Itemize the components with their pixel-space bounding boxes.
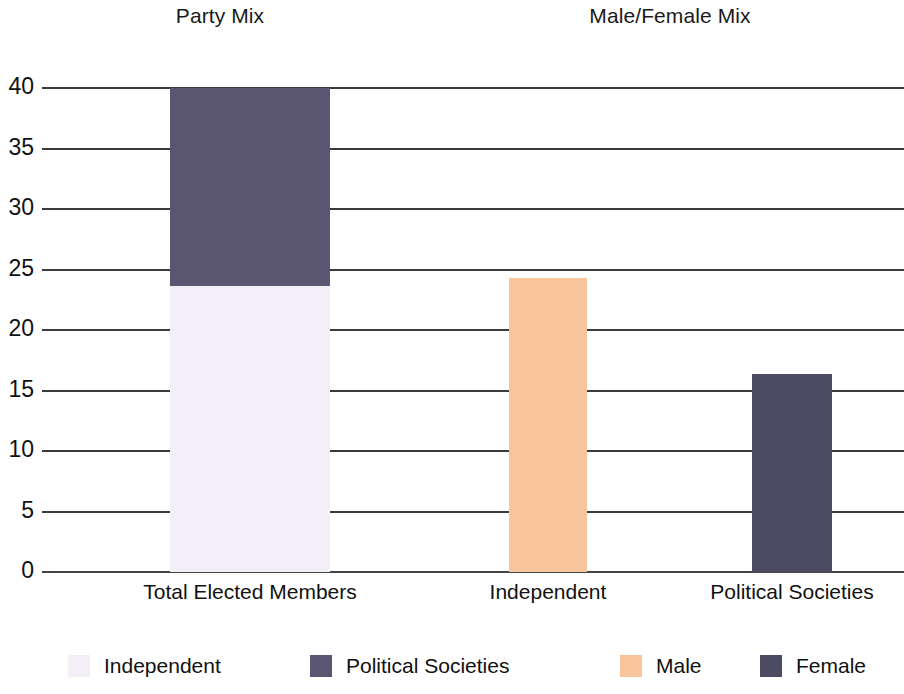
legend-item[interactable]: Male — [620, 648, 702, 684]
legend-swatch-icon — [620, 655, 642, 677]
y-tick-label: 30 — [0, 196, 34, 219]
legend-swatch-icon — [68, 655, 90, 677]
panel-title-party-mix: Party Mix — [110, 4, 330, 28]
chart-container: Party Mix Male/Female Mix 40353025201510… — [0, 0, 904, 694]
bar-segment — [170, 286, 330, 572]
x-axis-label: Total Elected Members — [90, 580, 410, 604]
legend-label: Independent — [104, 654, 221, 678]
legend-swatch-icon — [760, 655, 782, 677]
bar-segment — [170, 88, 330, 286]
bar — [509, 278, 587, 572]
legend-label: Political Societies — [346, 654, 509, 678]
legend-label: Female — [796, 654, 866, 678]
legend-item[interactable]: Female — [760, 648, 866, 684]
y-tick-label: 40 — [0, 75, 34, 98]
plot-area — [42, 88, 904, 572]
x-axis-label: Political Societies — [632, 580, 904, 604]
bar-segment — [509, 278, 587, 572]
legend-label: Male — [656, 654, 702, 678]
chart-legend: IndependentPolitical SocietiesMaleFemale — [0, 648, 904, 688]
legend-item[interactable]: Independent — [68, 648, 221, 684]
legend-swatch-icon — [310, 655, 332, 677]
y-tick-label: 35 — [0, 136, 34, 159]
y-tick-label: 25 — [0, 257, 34, 280]
y-tick-label: 0 — [0, 559, 34, 582]
legend-item[interactable]: Political Societies — [310, 648, 509, 684]
bar — [170, 88, 330, 572]
panel-title-male-female-mix: Male/Female Mix — [560, 4, 780, 28]
y-tick-label: 10 — [0, 438, 34, 461]
bar — [752, 374, 832, 572]
bar-segment — [752, 374, 832, 572]
y-tick-label: 20 — [0, 317, 34, 340]
y-tick-label: 5 — [0, 499, 34, 522]
y-tick-label: 15 — [0, 378, 34, 401]
